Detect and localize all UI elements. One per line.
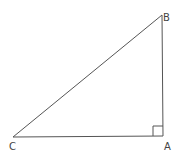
vertex-label-a: A <box>164 141 171 152</box>
triangle-diagram: B A C <box>0 0 180 160</box>
vertex-label-c: C <box>9 141 16 152</box>
vertex-label-b: B <box>163 12 170 23</box>
triangle-abc <box>13 15 163 137</box>
right-angle-marker <box>153 126 163 136</box>
